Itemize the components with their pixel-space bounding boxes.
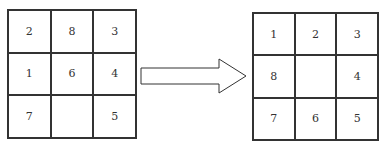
goal-cell-4-blank bbox=[295, 55, 337, 97]
right-arrow-icon bbox=[140, 57, 250, 97]
goal-cell-7: 6 bbox=[295, 98, 337, 140]
start-cell-6: 7 bbox=[8, 95, 51, 138]
start-cell-2: 3 bbox=[93, 10, 136, 53]
start-cell-1: 8 bbox=[51, 10, 94, 53]
goal-cell-2: 3 bbox=[336, 13, 378, 55]
start-state-grid: 2 8 3 1 6 4 7 5 bbox=[7, 9, 137, 139]
start-cell-7-blank bbox=[51, 95, 94, 138]
start-cell-8: 5 bbox=[93, 95, 136, 138]
goal-cell-3: 8 bbox=[253, 55, 295, 97]
start-cell-5: 4 bbox=[93, 53, 136, 96]
goal-state-grid: 1 2 3 8 4 7 6 5 bbox=[252, 12, 379, 141]
start-cell-0: 2 bbox=[8, 10, 51, 53]
start-cell-3: 1 bbox=[8, 53, 51, 96]
goal-cell-0: 1 bbox=[253, 13, 295, 55]
goal-cell-6: 7 bbox=[253, 98, 295, 140]
goal-cell-5: 4 bbox=[336, 55, 378, 97]
goal-cell-1: 2 bbox=[295, 13, 337, 55]
goal-cell-8: 5 bbox=[336, 98, 378, 140]
start-cell-4: 6 bbox=[51, 53, 94, 96]
